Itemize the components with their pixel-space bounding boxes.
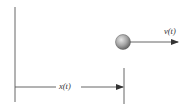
position-label: x(t) (57, 82, 73, 91)
motion-diagram (0, 0, 187, 110)
particle-ball (116, 35, 131, 50)
velocity-label: v(t) (162, 27, 178, 36)
